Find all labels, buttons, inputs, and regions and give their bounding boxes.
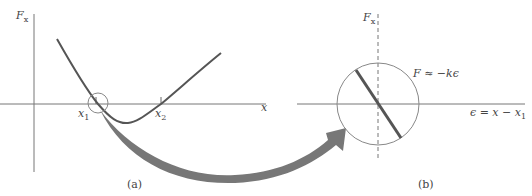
x1-label: x1 [78, 108, 89, 122]
panel-b-y-label: Fx [363, 12, 375, 26]
diagram-graphics [0, 0, 532, 196]
force-diagram: Fx x x1 x2 (a) Fx F ≈ −kϵ ϵ = x − x1 (b) [0, 0, 532, 196]
panel-a-caption: (a) [127, 179, 142, 190]
panel-a-x-label: x [261, 102, 267, 113]
panel-b-x-label: ϵ = x − x1 [470, 107, 526, 121]
panel-b-caption: (b) [418, 179, 434, 190]
panel-a-y-label: Fx [16, 10, 28, 24]
x2-label: x2 [155, 108, 166, 122]
equation-label: F ≈ −kϵ [413, 68, 459, 79]
